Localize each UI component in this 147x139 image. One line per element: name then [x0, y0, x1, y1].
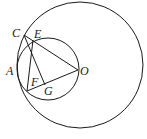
geometry-diagram: C E A O F G — [0, 0, 147, 139]
label-g: G — [44, 84, 53, 98]
label-e: E — [33, 27, 42, 41]
label-a: A — [5, 64, 14, 78]
label-c: C — [12, 26, 21, 40]
segment-co — [24, 35, 78, 70]
label-f: F — [30, 75, 39, 89]
label-o: O — [80, 64, 89, 78]
